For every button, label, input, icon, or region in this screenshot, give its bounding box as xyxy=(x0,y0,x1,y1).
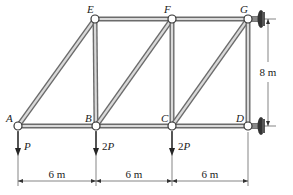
joint-label-C: C xyxy=(161,112,169,124)
joint-B xyxy=(92,122,100,130)
truss-diagram: P2P2P 6 m6 m6 m8 m ABCDEFG xyxy=(0,0,293,195)
dimension-label: 6 m xyxy=(126,168,143,180)
load-label: P xyxy=(23,140,31,152)
joint-label-E: E xyxy=(86,3,94,15)
joint-label-A: A xyxy=(5,112,13,124)
dimension-AB: 6 m xyxy=(18,168,96,183)
joint-C xyxy=(168,122,176,130)
joint-G xyxy=(244,15,252,23)
load-label: 2P xyxy=(178,140,191,152)
joint-label-G: G xyxy=(240,3,248,15)
member-AE xyxy=(18,19,95,126)
dimension-label: 8 m xyxy=(260,66,277,78)
joint-E xyxy=(91,15,99,23)
dimension-label: 6 m xyxy=(49,168,66,180)
dimension-BC: 6 m xyxy=(96,168,172,183)
member-EB xyxy=(95,19,96,126)
dimension-label: 6 m xyxy=(202,168,219,180)
dimension-vertical: 8 m xyxy=(260,19,277,126)
joint-label-D: D xyxy=(235,112,244,124)
dimension-CD: 6 m xyxy=(172,168,248,183)
joint-D xyxy=(244,122,252,130)
truss-members xyxy=(18,19,248,126)
load-A: P xyxy=(15,131,31,156)
load-label: 2P xyxy=(102,140,115,152)
member-BF xyxy=(96,19,172,126)
applied-loads: P2P2P xyxy=(15,131,191,156)
member-CG xyxy=(172,19,248,126)
joint-label-F: F xyxy=(163,3,171,15)
joint-F xyxy=(168,15,176,23)
joint-A xyxy=(14,122,22,130)
joint-label-B: B xyxy=(85,112,92,124)
dimensions: 6 m6 m6 m8 m xyxy=(18,19,277,186)
